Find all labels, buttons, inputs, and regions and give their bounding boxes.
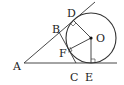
radius-of xyxy=(68,38,91,50)
label-e: E xyxy=(85,71,93,84)
label-o: O xyxy=(96,32,105,45)
radius-od xyxy=(73,20,91,38)
label-c: C xyxy=(70,71,78,84)
label-d: D xyxy=(67,7,76,20)
geometry-diagram: A B C D E F O xyxy=(0,0,124,85)
label-f: F xyxy=(59,47,67,60)
center-dot xyxy=(89,36,92,39)
label-b: B xyxy=(52,23,60,36)
label-a: A xyxy=(12,60,22,73)
